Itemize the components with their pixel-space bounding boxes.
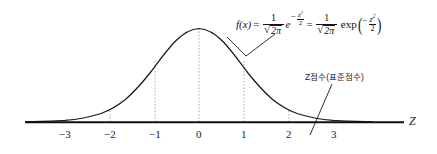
formula-exp-function: exp xyxy=(341,19,357,30)
tick-label-pos2: 2 xyxy=(274,128,304,140)
normal-distribution-figure: f(x) = 1 2π e − z2 2 = 1 2π exp ( − z2 2 xyxy=(0,0,437,154)
formula-exponent-2-fraction: z2 2 xyxy=(368,16,377,34)
density-formula: f(x) = 1 2π e − z2 2 = 1 2π exp ( − z2 2 xyxy=(236,13,381,36)
formula-exponent-1-fraction: z2 2 xyxy=(296,12,304,28)
gridlines xyxy=(65,29,334,123)
formula-equals-2: = xyxy=(307,19,313,30)
formula-fraction-2-numerator: 1 xyxy=(322,13,331,24)
tick-label-neg3: −3 xyxy=(50,128,80,140)
formula-arg: (x) xyxy=(239,19,251,30)
tick-label-neg1: −1 xyxy=(140,128,170,140)
formula-exponent-1: − z2 2 xyxy=(290,12,304,28)
formula-fraction-1-denominator: 2π xyxy=(263,24,284,37)
formula-exponent-1-numerator: z2 xyxy=(296,12,304,19)
tick-label-0: 0 xyxy=(184,128,214,140)
formula-exponent-1-power: 2 xyxy=(301,9,303,14)
z-score-annotation-label: Z점수(표준점수) xyxy=(305,70,364,82)
tick-label-pos3: 3 xyxy=(319,128,349,140)
tick-label-pos1: 1 xyxy=(229,128,259,140)
sqrt-icon: 2π xyxy=(265,25,282,37)
formula-exponent-2-denominator: 2 xyxy=(369,24,376,33)
formula-exponent-2-numerator: z2 xyxy=(368,16,377,24)
x-axis-label: Z xyxy=(409,114,416,129)
formula-fraction-2: 1 2π xyxy=(316,13,337,36)
formula-fraction-1-radicand: 2π xyxy=(270,25,282,37)
formula-fraction-2-denominator: 2π xyxy=(316,24,337,37)
formula-fraction-1-numerator: 1 xyxy=(269,13,278,24)
formula-paren-close: ) xyxy=(377,17,381,32)
formula-exponent-2-minus: − xyxy=(362,16,367,25)
sqrt-icon-2: 2π xyxy=(318,25,335,37)
formula-exponent-2: − z2 2 xyxy=(362,16,377,34)
formula-fraction-2-radicand: 2π xyxy=(323,25,335,37)
formula-equals-1: = xyxy=(253,19,259,30)
tick-label-neg2: −2 xyxy=(95,128,125,140)
formula-exponent-1-denominator: 2 xyxy=(297,19,304,27)
formula-exponent-2-power: 2 xyxy=(373,13,376,19)
formula-leader-line xyxy=(227,34,275,56)
formula-exponent-1-minus: − xyxy=(290,12,295,21)
formula-fraction-1: 1 2π xyxy=(263,13,284,36)
